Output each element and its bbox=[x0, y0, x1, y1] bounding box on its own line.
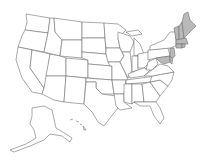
alaska-inset bbox=[10, 106, 72, 152]
state-in[interactable] bbox=[132, 56, 138, 72]
state-me[interactable] bbox=[182, 12, 196, 38]
state-wy[interactable] bbox=[60, 40, 82, 58]
state-ny[interactable] bbox=[150, 32, 176, 50]
state-ak[interactable] bbox=[10, 106, 72, 152]
state-hi[interactable] bbox=[70, 119, 86, 130]
state-ks[interactable] bbox=[88, 64, 112, 80]
state-az[interactable] bbox=[42, 76, 66, 102]
state-wa[interactable] bbox=[25, 14, 50, 33]
state-nj[interactable] bbox=[170, 48, 175, 58]
state-nm[interactable] bbox=[64, 76, 86, 104]
hawaii-inset bbox=[70, 119, 86, 130]
state-ms[interactable] bbox=[124, 84, 132, 104]
state-ct[interactable] bbox=[176, 44, 182, 48]
state-ri[interactable] bbox=[182, 44, 185, 48]
state-nd[interactable] bbox=[82, 22, 105, 38]
us-map bbox=[0, 0, 204, 164]
state-fl[interactable] bbox=[134, 102, 164, 124]
state-sd[interactable] bbox=[82, 38, 106, 54]
state-co[interactable] bbox=[66, 58, 88, 78]
